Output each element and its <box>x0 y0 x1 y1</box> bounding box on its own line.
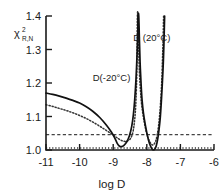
curve-annotation-0: D(-20°C) <box>93 72 131 83</box>
x-tick-label-4: -7 <box>176 156 186 168</box>
y-axis-title: χ 2 R,N <box>14 26 34 42</box>
y-tick-label-4: 1.4 <box>26 10 41 22</box>
y-tick-label-1: 1.1 <box>26 111 41 123</box>
chi-squared-vs-logD-plot: 1.01.11.21.31.4 -11-10-9-8-7-6 χ 2 R,N l… <box>0 0 222 193</box>
x-tick-label-5: -6 <box>209 156 219 168</box>
y-tick-label-3: 1.3 <box>26 44 41 56</box>
x-tick-label-2: -9 <box>108 156 118 168</box>
y-axis-ticks <box>46 16 52 150</box>
chart-figure: 1.01.11.21.31.4 -11-10-9-8-7-6 χ 2 R,N l… <box>0 0 222 193</box>
x-tick-label-0: -11 <box>38 156 53 168</box>
x-axis-tick-labels: -11-10-9-8-7-6 <box>38 156 218 168</box>
x-tick-label-1: -10 <box>72 156 88 168</box>
x-axis-title: log D <box>99 178 126 190</box>
x-axis-ticks <box>46 144 214 150</box>
y-tick-label-0: 1.0 <box>26 144 41 156</box>
x-tick-label-3: -8 <box>142 156 152 168</box>
y-axis-title-superscript: 2 <box>22 26 26 33</box>
y-tick-label-2: 1.2 <box>26 77 41 89</box>
curve-annotation-1: D (20°C) <box>133 32 170 43</box>
y-axis-tick-labels: 1.01.11.21.31.4 <box>26 10 41 156</box>
curve-annotations: D(-20°C)D (20°C) <box>93 32 171 83</box>
y-axis-title-base: χ <box>14 27 20 39</box>
y-axis-title-subscript: R,N <box>22 35 34 42</box>
